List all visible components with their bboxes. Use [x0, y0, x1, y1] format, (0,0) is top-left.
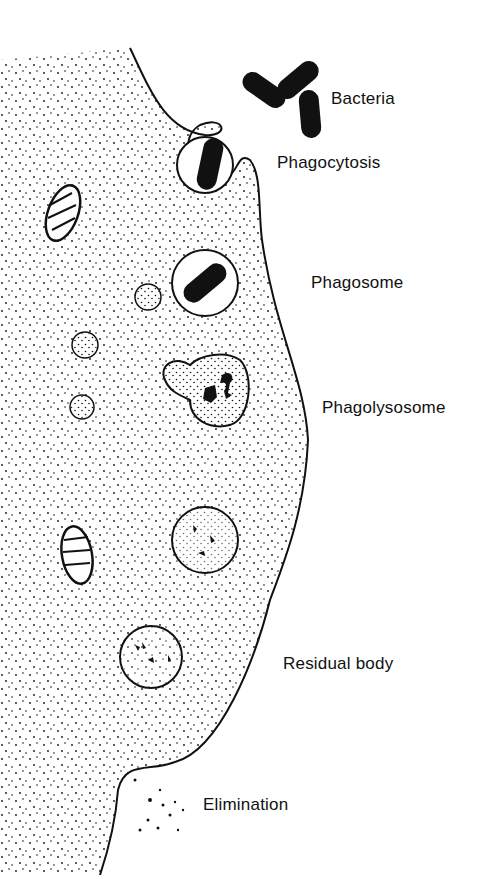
lysosome-icon [135, 284, 161, 310]
digesting-vacuole [172, 507, 238, 573]
bacteria-icon [239, 57, 323, 139]
phagosome [172, 250, 238, 316]
label-residual-body: Residual body [283, 654, 393, 674]
phagocytosis-vacuole [177, 136, 233, 193]
cytoplasm [0, 0, 320, 875]
label-phagolysosome: Phagolysosome [322, 398, 446, 418]
label-bacteria: Bacteria [331, 89, 395, 109]
label-phagosome: Phagosome [311, 273, 404, 293]
lysosome-icon [72, 332, 98, 358]
phagocytosis-diagram [0, 0, 497, 875]
elimination-debris [134, 779, 185, 832]
residual-body [120, 626, 182, 688]
label-phagocytosis: Phagocytosis [277, 153, 381, 173]
lysosome-icon [70, 395, 94, 419]
label-elimination: Elimination [203, 795, 288, 815]
